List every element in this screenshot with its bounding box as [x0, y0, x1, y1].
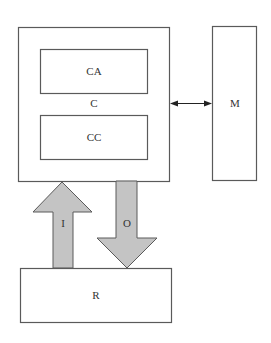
resource-box: R [21, 269, 172, 323]
control-a-label: CA [86, 65, 101, 77]
input-label: I [61, 217, 65, 229]
memory-box: M [213, 27, 257, 181]
bidirectional-arrow [170, 101, 212, 107]
input-arrow: I [33, 182, 92, 268]
resource-label: R [92, 289, 100, 301]
output-label: O [123, 217, 131, 229]
output-arrow: O [97, 181, 157, 268]
computer-label: C [90, 97, 97, 109]
control-a-box: CA [41, 50, 148, 94]
arrowhead-left-icon [170, 101, 178, 107]
diagram-canvas: CA C CC M I O R [0, 0, 271, 343]
control-c-label: CC [87, 131, 102, 143]
arrowhead-right-icon [204, 101, 212, 107]
memory-label: M [230, 97, 240, 109]
control-c-box: CC [41, 116, 148, 160]
